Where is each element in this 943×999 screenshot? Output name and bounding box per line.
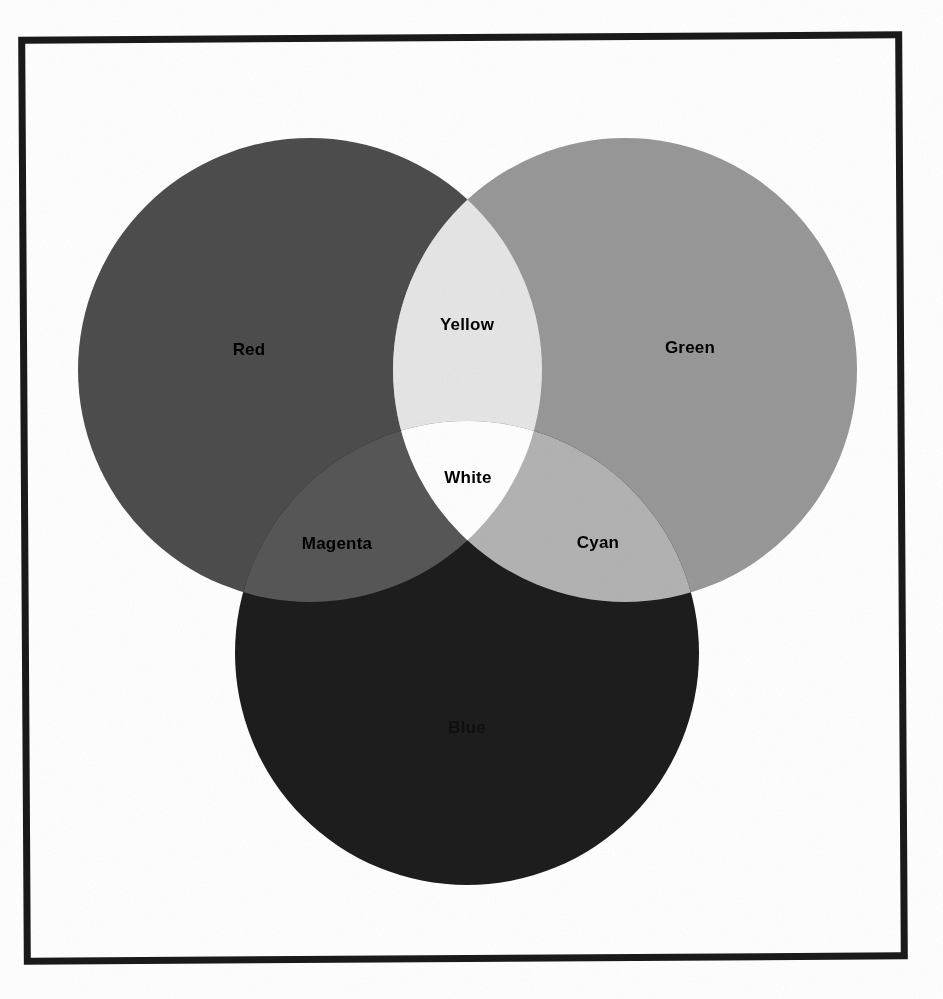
venn-diagram: Red Green Blue Yellow Magenta Cyan White: [0, 0, 943, 999]
page-root: Red Green Blue Yellow Magenta Cyan White: [0, 0, 943, 999]
label-magenta: Magenta: [302, 534, 372, 554]
label-green: Green: [665, 338, 715, 358]
venn-canvas: [0, 0, 943, 999]
label-red: Red: [233, 340, 266, 360]
label-white: White: [444, 468, 491, 488]
label-blue: Blue: [448, 718, 486, 738]
label-yellow: Yellow: [440, 315, 494, 335]
label-cyan: Cyan: [577, 533, 619, 553]
